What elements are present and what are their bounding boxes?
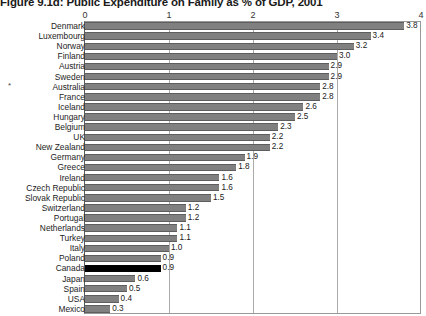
bar-row: Iceland2.6 <box>0 102 426 112</box>
category-label-australia: Australia <box>52 82 85 92</box>
bar-switzerland <box>85 204 186 211</box>
bar-ireland <box>85 174 219 181</box>
x-tick-1: 1 <box>166 10 171 20</box>
category-label-mexico: Mexico <box>58 304 85 314</box>
x-tick-0: 0 <box>82 10 87 20</box>
bar-value-label: 2.6 <box>303 102 316 112</box>
bar-row: Netherlands1.1 <box>0 223 426 233</box>
bar-value-label: 0.9 <box>161 253 174 263</box>
bar-value-label: 2.2 <box>270 142 283 152</box>
bar-row: UK2.2 <box>0 132 426 142</box>
category-label-spain: Spain <box>64 284 85 294</box>
bar-canada <box>85 265 161 272</box>
bar-value-label: 2.2 <box>270 132 283 142</box>
x-tick-2: 2 <box>250 10 255 20</box>
bar-uk <box>85 134 270 141</box>
category-label-turkey: Turkey <box>60 233 85 243</box>
x-tick-3: 3 <box>334 10 339 20</box>
bar-italy <box>85 245 169 252</box>
category-label-uk: UK <box>73 132 85 142</box>
category-label-switzerland: Switzerland <box>42 203 85 213</box>
bar-france <box>85 93 320 100</box>
bar-japan <box>85 275 135 282</box>
category-label-greece: Greece <box>58 162 85 172</box>
bar-spain <box>85 285 127 292</box>
bar-austria <box>85 63 329 70</box>
bar-row: Portugal1.2 <box>0 213 426 223</box>
bar-finland <box>85 53 337 60</box>
bar-value-label: 1.1 <box>177 233 190 243</box>
bar-row: Mexico0.3 <box>0 304 426 314</box>
bar-value-label: 2.3 <box>278 122 291 132</box>
category-label-belgium: Belgium <box>55 122 85 132</box>
bar-value-label: 2.8 <box>320 82 333 92</box>
category-label-austria: Austria <box>59 61 85 71</box>
bar-row: Ireland1.6 <box>0 173 426 183</box>
bar-poland <box>85 255 161 262</box>
bar-value-label: 1.8 <box>236 162 249 172</box>
category-label-germany: Germany <box>51 152 85 162</box>
category-label-denmark: Denmark <box>51 21 85 31</box>
category-label-sweden: Sweden <box>55 72 85 82</box>
bar-value-label: 3.2 <box>354 41 367 51</box>
bar-row: USA0.4 <box>0 294 426 304</box>
bar-row: Hungary2.5 <box>0 112 426 122</box>
bar-value-label: 0.6 <box>135 274 148 284</box>
bar-australia <box>85 83 320 90</box>
bar-row: France2.8 <box>0 92 426 102</box>
bar-iceland <box>85 103 303 110</box>
category-label-france: France <box>59 92 85 102</box>
bar-row: New Zealand2.2 <box>0 142 426 152</box>
category-label-luxembourg: Luxembourg <box>38 31 85 41</box>
bar-value-label: 1.6 <box>219 183 232 193</box>
category-label-canada: Canada <box>56 263 85 273</box>
bar-value-label: 1.6 <box>219 173 232 183</box>
bar-row: Italy1.0 <box>0 243 426 253</box>
category-label-slovak-republic: Slovak Republic <box>25 193 85 203</box>
bar-value-label: 0.9 <box>161 263 174 273</box>
bar-value-label: 3.8 <box>404 21 417 31</box>
bar-czech-republic <box>85 184 219 191</box>
bar-value-label: 2.9 <box>329 72 342 82</box>
bar-hungary <box>85 113 295 120</box>
bar-row: Czech Republic1.6 <box>0 183 426 193</box>
bar-value-label: 2.8 <box>320 92 333 102</box>
bar-sweden <box>85 73 329 80</box>
bar-value-label: 2.9 <box>329 61 342 71</box>
x-tick-4: 4 <box>418 10 423 20</box>
bar-row: Poland0.9 <box>0 253 426 263</box>
bar-row: Turkey1.1 <box>0 233 426 243</box>
bar-value-label: 1.0 <box>169 243 182 253</box>
bar-row: Sweden2.9 <box>0 72 426 82</box>
bar-belgium <box>85 123 278 130</box>
bar-row: Finland3.0 <box>0 51 426 61</box>
bar-row: Canada0.9 <box>0 263 426 273</box>
bar-value-label: 1.5 <box>211 193 224 203</box>
bar-row: Australia*2.8 <box>0 82 426 92</box>
bar-value-label: 3.4 <box>371 31 384 41</box>
bar-turkey <box>85 235 177 242</box>
bar-rows: Denmark3.8Luxembourg3.4Norway3.2Finland3… <box>0 21 426 314</box>
bar-value-label: 3.0 <box>337 51 350 61</box>
category-label-poland: Poland <box>59 253 85 263</box>
bar-mexico <box>85 305 110 312</box>
bar-row: Austria2.9 <box>0 61 426 71</box>
category-label-portugal: Portugal <box>54 213 85 223</box>
category-label-hungary: Hungary <box>53 112 85 122</box>
bar-new-zealand <box>85 144 270 151</box>
bar-value-label: 1.2 <box>186 213 199 223</box>
bar-greece <box>85 164 236 171</box>
category-label-japan: Japan <box>62 274 85 284</box>
bar-value-label: 1.1 <box>177 223 190 233</box>
bar-row: Denmark3.8 <box>0 21 426 31</box>
bar-luxembourg <box>85 32 371 39</box>
category-label-norway: Norway <box>57 41 85 51</box>
bar-value-label: 2.5 <box>295 112 308 122</box>
bar-value-label: 0.5 <box>127 284 140 294</box>
bar-value-label: 0.4 <box>119 294 132 304</box>
bar-row: Norway3.2 <box>0 41 426 51</box>
bar-row: Belgium2.3 <box>0 122 426 132</box>
bar-row: Switzerland1.2 <box>0 203 426 213</box>
bar-norway <box>85 43 354 50</box>
footnote-marker-icon: * <box>8 81 11 90</box>
